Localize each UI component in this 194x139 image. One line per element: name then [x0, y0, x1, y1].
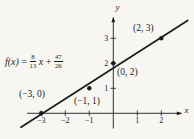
equation-variable: x [39, 57, 43, 67]
data-point [87, 86, 91, 90]
point-label-0-2: (0, 2) [117, 67, 138, 78]
data-point [111, 61, 115, 65]
equation-lhs: f(x) [5, 57, 19, 67]
intercept-numerator: 47 [54, 53, 63, 62]
y-axis-arrow-icon [111, 17, 115, 23]
x-tick-label: −3 [37, 116, 46, 125]
x-axis-label: x [184, 105, 189, 115]
equals-sign: = [21, 57, 27, 67]
point-label-neg1-1: (−1, 1) [74, 96, 100, 107]
plus-sign: + [46, 57, 52, 67]
equation-label: f(x) = 8 13 x + 47 26 [5, 54, 63, 71]
intercept-fraction: 47 26 [54, 53, 63, 70]
slope-numerator: 8 [30, 53, 35, 62]
point-label-2-3: (2, 3) [133, 23, 154, 34]
x-tick-label: 2 [159, 116, 163, 125]
x-tick-label: −1 [85, 116, 94, 125]
intercept-denominator: 26 [55, 62, 62, 70]
y-tick-label: 3 [104, 34, 108, 43]
point-label-neg3-0: (−3, 0) [19, 89, 45, 100]
x-tick-label: 1 [135, 116, 139, 125]
slope-fraction: 8 13 [30, 53, 37, 70]
y-axis-label: y [115, 2, 120, 12]
x-tick-label: −2 [61, 116, 70, 125]
y-tick-label: 2 [104, 59, 108, 68]
data-point [159, 36, 163, 40]
y-tick-label: 1 [104, 84, 108, 93]
x-axis-arrow-icon [177, 111, 183, 115]
data-point [39, 111, 43, 115]
slope-denominator: 13 [30, 62, 37, 70]
best-fit-line-figure: (−3, 0) (−1, 1) (0, 2) (2, 3) x y −3−2−1… [0, 0, 194, 139]
